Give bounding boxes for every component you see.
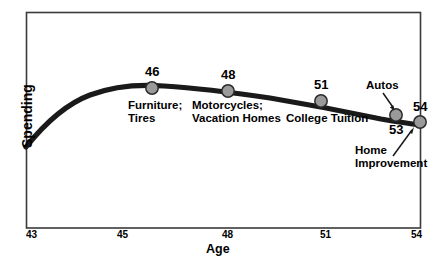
y-axis-title: Spending bbox=[20, 84, 35, 148]
point-label-54: 54 bbox=[413, 100, 427, 114]
point-label-46: 46 bbox=[145, 65, 159, 79]
data-point-marker-48 bbox=[222, 85, 234, 97]
annotation-autos: Autos bbox=[366, 79, 399, 91]
point-label-53: 53 bbox=[389, 123, 403, 137]
x-axis-title: Age bbox=[206, 243, 230, 257]
data-point-marker-46 bbox=[146, 82, 158, 94]
annotation-home-line2: Improvement bbox=[355, 157, 427, 169]
annotation-college-tuition: College Tuition bbox=[286, 112, 368, 124]
annotation-furniture-line1: Furniture; bbox=[128, 99, 182, 111]
annotation-motorcycles-line1: Motorcycles; bbox=[192, 99, 263, 111]
point-label-48: 48 bbox=[221, 68, 235, 82]
point-label-51: 51 bbox=[314, 78, 328, 92]
data-point-marker-53 bbox=[390, 109, 402, 121]
chart-canvas bbox=[0, 0, 434, 271]
data-point-marker-51 bbox=[315, 95, 327, 107]
x-tick-label-45: 45 bbox=[117, 230, 128, 241]
x-tick-label-43: 43 bbox=[26, 230, 37, 241]
autos-leader-arrow bbox=[383, 93, 395, 111]
x-tick-label-51: 51 bbox=[320, 230, 331, 241]
x-tick-label-54: 54 bbox=[411, 230, 422, 241]
x-tick-label-48: 48 bbox=[222, 230, 233, 241]
data-point-marker-54 bbox=[414, 116, 426, 128]
annotation-home-line1: Home bbox=[355, 144, 387, 156]
annotation-furniture-line2: Tires bbox=[128, 112, 155, 124]
spending-by-age-chart: Spending 46 48 51 53 54 Furniture; Tires… bbox=[0, 0, 434, 271]
annotation-motorcycles-line2: Vacation Homes bbox=[192, 112, 281, 124]
